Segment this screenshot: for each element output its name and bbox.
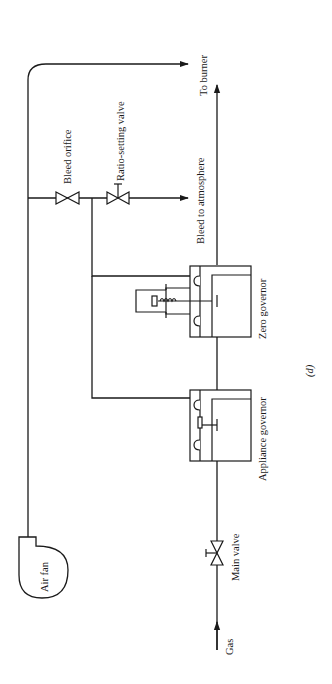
ratio-setting-valve-label: Ratio-setting valve xyxy=(115,101,126,181)
to-burner-label: To burner xyxy=(198,55,209,96)
bleed-orifice-label: Bleed orifice xyxy=(62,129,73,184)
bleed-to-atmosphere-label: Bleed to atmosphere xyxy=(195,157,206,244)
appliance-governor-label: Appliance governor xyxy=(257,397,268,481)
figure-label: (d) xyxy=(304,364,316,377)
air-fan-label: Air fan xyxy=(39,561,50,592)
bleed-orifice-icon xyxy=(56,192,79,204)
impulse-line-appliance xyxy=(92,276,190,398)
main-valve-label: Main valve xyxy=(230,533,241,581)
ratio-setting-valve-icon xyxy=(107,184,129,204)
gas-label: Gas xyxy=(224,639,235,655)
main-valve-icon xyxy=(206,541,223,565)
appliance-governor-icon xyxy=(190,390,251,461)
impulse-line xyxy=(92,198,190,276)
gas-air-ratio-control-diagram: Air fan Gas Main valve Appliance governo… xyxy=(0,0,332,684)
zero-governor-label: Zero governor xyxy=(257,278,268,339)
